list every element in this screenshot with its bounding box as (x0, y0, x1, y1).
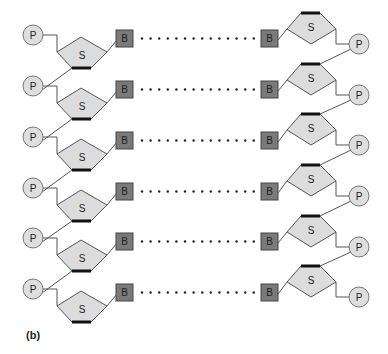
hydrogen-bond-dot (192, 88, 194, 90)
phosphate-sugar-bond (336, 181, 349, 196)
sugar-label: S (79, 304, 86, 315)
hydrogen-bond-dot (218, 240, 220, 242)
sugar-label: S (308, 275, 315, 286)
base-label: B (121, 186, 128, 197)
hydrogen-bond-dot (227, 240, 229, 242)
base-label: B (266, 236, 273, 247)
phosphate-label: P (356, 191, 363, 202)
hydrogen-bond-dot (253, 291, 255, 293)
phosphate-sugar-bond (43, 188, 57, 205)
backbone-link (320, 252, 351, 266)
base-label: B (121, 33, 128, 44)
hydrogen-bond-dot (167, 139, 169, 141)
phosphate-label: P (30, 81, 37, 92)
hydrogen-bond-dot (244, 88, 246, 90)
hydrogen-bond-dot (201, 190, 203, 192)
hydrogen-bond-dot (141, 139, 143, 141)
hydrogen-bond-dot (244, 240, 246, 242)
base-label: B (121, 135, 128, 146)
hydrogen-bond-dot (218, 291, 220, 293)
hydrogen-bond-dot (218, 88, 220, 90)
hydrogen-bond-dot (141, 88, 143, 90)
hydrogen-bond-dot (235, 190, 237, 192)
hydrogen-bond-dot (201, 37, 203, 39)
hydrogen-bond-dot (175, 37, 177, 39)
phosphate-sugar-bond (43, 238, 57, 255)
hydrogen-bond-dot (167, 190, 169, 192)
hydrogen-bond-dot (253, 139, 255, 141)
sugar-label: S (79, 253, 86, 264)
hydrogen-bond-dot (235, 291, 237, 293)
hydrogen-bond-dot (192, 37, 194, 39)
phosphate-label: P (30, 284, 37, 295)
phosphate-label: P (356, 242, 363, 253)
hydrogen-bond-dot (167, 88, 169, 90)
hydrogen-bond-dot (235, 240, 237, 242)
hydrogen-bond-dot (210, 291, 212, 293)
hydrogen-bond-dot (210, 88, 212, 90)
hydrogen-bond-dot (149, 139, 151, 141)
hydrogen-bond-dot (149, 88, 151, 90)
hydrogen-bond-dot (175, 190, 177, 192)
phosphate-sugar-bond (336, 130, 349, 145)
hydrogen-bond-dot (227, 139, 229, 141)
phosphate-label: P (30, 132, 37, 143)
hydrogen-bond-dot (192, 190, 194, 192)
dna-strand-diagram: SBPBSPSBPBSPSBPBSPSBPBSPSBPBSPSBPBSP (0, 0, 388, 354)
hydrogen-bond-dot (201, 240, 203, 242)
phosphate-label: P (356, 292, 363, 303)
hydrogen-bond-dot (141, 291, 143, 293)
hydrogen-bond-dot (244, 291, 246, 293)
hydrogen-bond-dot (158, 240, 160, 242)
hydrogen-bond-dot (149, 37, 151, 39)
hydrogen-bond-dot (149, 190, 151, 192)
hydrogen-bond-dot (235, 88, 237, 90)
hydrogen-bond-dot (210, 37, 212, 39)
sugar-label: S (308, 73, 315, 84)
base-label: B (121, 84, 128, 95)
phosphate-label: P (356, 39, 363, 50)
hydrogen-bond-dot (218, 37, 220, 39)
sugar-label: S (308, 123, 315, 134)
base-label: B (121, 287, 128, 298)
hydrogen-bond-dot (175, 88, 177, 90)
sugar-base-bond (278, 282, 287, 294)
base-label: B (266, 287, 273, 298)
hydrogen-bond-dot (158, 139, 160, 141)
hydrogen-bond-dot (244, 37, 246, 39)
hydrogen-bond-dot (227, 190, 229, 192)
phosphate-label: P (30, 183, 37, 194)
hydrogen-bond-dot (201, 291, 203, 293)
hydrogen-bond-dot (210, 190, 212, 192)
hydrogen-bond-dot (175, 291, 177, 293)
sugar-label: S (308, 22, 315, 33)
phosphate-label: P (356, 90, 363, 101)
hydrogen-bond-dot (235, 139, 237, 141)
backbone-link (320, 100, 351, 114)
hydrogen-bond-dot (184, 240, 186, 242)
hydrogen-bond-dot (253, 190, 255, 192)
hydrogen-bond-dot (158, 37, 160, 39)
hydrogen-bond-dot (201, 88, 203, 90)
hydrogen-bond-dot (192, 240, 194, 242)
sugar-base-bond (278, 29, 287, 40)
hydrogen-bond-dot (253, 37, 255, 39)
sugar-base-bond (278, 232, 287, 243)
hydrogen-bond-dot (141, 240, 143, 242)
hydrogen-bond-dot (167, 37, 169, 39)
phosphate-label: P (30, 30, 37, 41)
hydrogen-bond-dot (192, 291, 194, 293)
hydrogen-bond-dot (141, 37, 143, 39)
hydrogen-bond-dot (184, 139, 186, 141)
hydrogen-bond-dot (201, 139, 203, 141)
hydrogen-bond-dot (253, 88, 255, 90)
sugar-base-bond (278, 80, 287, 91)
sugar-label: S (308, 225, 315, 236)
sugar-label: S (79, 152, 86, 163)
phosphate-sugar-bond (336, 29, 349, 44)
hydrogen-bond-dot (227, 291, 229, 293)
hydrogen-bond-dot (158, 190, 160, 192)
base-label: B (121, 236, 128, 247)
phosphate-label: P (30, 233, 37, 244)
hydrogen-bond-dot (253, 240, 255, 242)
